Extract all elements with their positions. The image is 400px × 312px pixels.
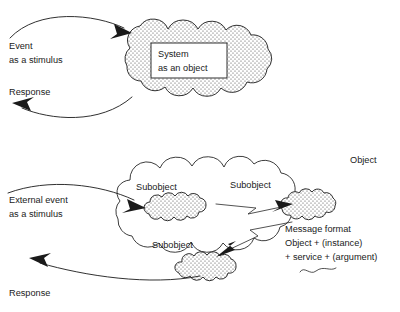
message-format-brace xyxy=(300,268,336,272)
response-arrow-bottom xyxy=(29,253,200,280)
subobject-cloud-1 xyxy=(144,192,206,221)
object-label: Object xyxy=(350,155,377,165)
system-label-line1: System xyxy=(158,49,189,59)
diagram-canvas: System as an object Event as a stimulus … xyxy=(0,0,400,312)
subobject-label-3: Subobject xyxy=(152,240,193,250)
message-format-line3: + service + (argument) xyxy=(285,252,377,262)
message-format-line1: Message format xyxy=(285,224,351,234)
response-arrow-top xyxy=(12,97,132,118)
response-label-top: Response xyxy=(9,87,50,97)
object-cloud xyxy=(116,156,297,252)
subobject-label-2: Subobject xyxy=(230,180,271,190)
event-stimulus-arrow xyxy=(10,16,132,39)
external-event-label-line2: as a stimulus xyxy=(9,209,63,219)
diagram-root: System as an object Event as a stimulus … xyxy=(0,0,400,312)
subobject-label-1: Subobject xyxy=(136,182,177,192)
event-label-line1: Event xyxy=(9,41,33,51)
system-label-line2: as an object xyxy=(158,63,208,73)
subobject-cloud-3 xyxy=(175,252,236,281)
message-format-line2: Object + (instance) xyxy=(285,238,362,248)
event-label-line2: as a stimulus xyxy=(9,55,63,65)
external-event-label-line1: External event xyxy=(9,195,68,205)
response-label-bottom: Response xyxy=(9,288,50,298)
